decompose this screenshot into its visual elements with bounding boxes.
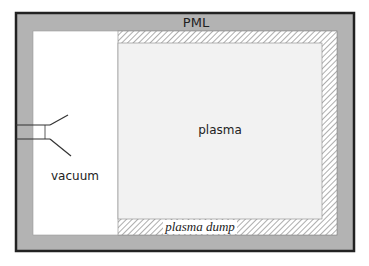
pml-label: PML (183, 15, 210, 30)
plasma-dump-label: plasma dump (164, 219, 235, 234)
simulation-domain-diagram: PML plasma vacuum plasma dump (0, 0, 369, 266)
plasma-label: plasma (198, 123, 242, 137)
vacuum-label: vacuum (51, 169, 99, 183)
